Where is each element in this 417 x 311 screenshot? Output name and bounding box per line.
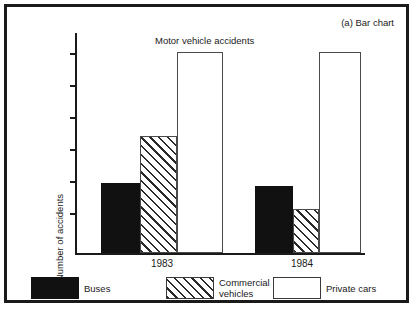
x-axis-category-1984: 1984 [275, 258, 329, 269]
legend-label-commercial-line2: vehicles [219, 288, 270, 299]
bar-1983-commercial-vehicles [140, 136, 177, 253]
y-axis-tick [70, 181, 76, 183]
y-axis-tick [70, 149, 76, 151]
bar-1984-commercial-vehicles [293, 209, 319, 253]
figure-border: (a) Bar chart Motor vehicle accidents Nu… [4, 4, 409, 303]
bar-1983-private-cars [177, 52, 223, 253]
legend-item-commercial-vehicles: Commercial vehicles [166, 277, 270, 299]
legend-swatch-buses [31, 277, 79, 299]
legend-label-commercial-line1: Commercial [219, 277, 270, 288]
y-axis-label-wrap: Number of accidents [37, 92, 51, 202]
bar-chart-figure: (a) Bar chart Motor vehicle accidents Nu… [0, 0, 417, 311]
y-axis-tick [70, 213, 76, 215]
legend-item-private-cars: Private cars [273, 277, 376, 299]
bar-1983-buses [101, 183, 140, 253]
x-axis-category-1983: 1983 [135, 258, 189, 269]
legend-swatch-private-cars [273, 277, 321, 299]
x-axis-line [75, 253, 365, 255]
y-axis-tick [70, 117, 76, 119]
bar-1984-private-cars [319, 52, 361, 253]
y-axis-tick [70, 85, 76, 87]
legend-label-commercial-vehicles: Commercial vehicles [219, 277, 270, 299]
plot-area: 1983 1984 [75, 33, 365, 255]
bar-1984-buses [255, 186, 293, 253]
legend-label-buses: Buses [84, 283, 110, 294]
legend-item-buses: Buses [31, 277, 110, 299]
figure-caption: (a) Bar chart [341, 17, 394, 28]
y-axis-line [75, 33, 77, 254]
chart-legend: Buses Commercial vehicles Private cars [31, 275, 391, 307]
legend-label-private-cars: Private cars [326, 283, 376, 294]
y-axis-tick [70, 53, 76, 55]
legend-swatch-commercial-vehicles [166, 277, 214, 299]
